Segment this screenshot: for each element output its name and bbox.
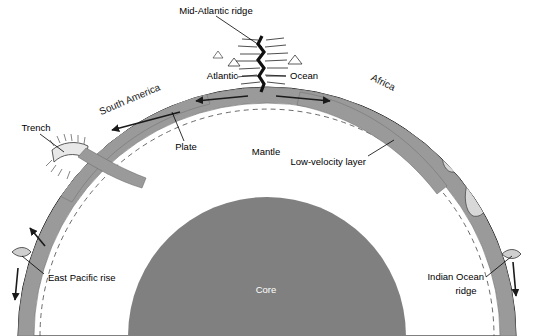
label-mantle: Mantle bbox=[252, 146, 281, 157]
east-pacific-rise-notch bbox=[12, 248, 31, 257]
label-ocean: Ocean bbox=[290, 70, 318, 81]
label-east-pacific-rise: East Pacific rise bbox=[48, 272, 116, 283]
label-indian-ocean-ridge-line1: Indian Ocean bbox=[427, 271, 484, 282]
leader-trench bbox=[40, 134, 64, 152]
continent-fragment-lower-right bbox=[465, 182, 487, 217]
label-south-america: South America bbox=[98, 81, 163, 117]
seamount-right bbox=[288, 55, 302, 64]
seamount-small bbox=[213, 51, 223, 58]
label-africa: Africa bbox=[369, 72, 397, 93]
east-pacific-rise-feature bbox=[12, 248, 31, 257]
continental-margin-africa bbox=[290, 40, 334, 50]
label-trench: Trench bbox=[21, 122, 50, 133]
label-indian-ocean-ridge-line2: ridge bbox=[455, 285, 476, 296]
earth-cross-section-figure: Mid-Atlantic ridge Atlantic Ocean Africa… bbox=[0, 0, 533, 336]
label-low-velocity-layer: Low-velocity layer bbox=[291, 156, 367, 167]
continent-fragment-upper-right bbox=[442, 144, 464, 172]
arrow-left-limb-down bbox=[15, 268, 18, 300]
seamount-left bbox=[228, 58, 240, 66]
ridge-rift-valley bbox=[258, 36, 264, 92]
indian-ocean-ridge-feature bbox=[502, 250, 521, 259]
label-core: Core bbox=[256, 284, 277, 295]
leader-mid-atlantic-ridge bbox=[216, 16, 262, 47]
transform-faults-left bbox=[236, 39, 260, 84]
indian-ocean-ridge-notch bbox=[502, 250, 521, 259]
label-plate: Plate bbox=[175, 141, 197, 152]
transform-faults-right bbox=[265, 38, 288, 84]
arrow-indian-ocean-ridge-down bbox=[513, 262, 516, 296]
label-atlantic: Atlantic bbox=[207, 70, 238, 81]
label-mid-atlantic-ridge: Mid-Atlantic ridge bbox=[179, 5, 252, 16]
shelf-edge-africa bbox=[288, 34, 342, 54]
